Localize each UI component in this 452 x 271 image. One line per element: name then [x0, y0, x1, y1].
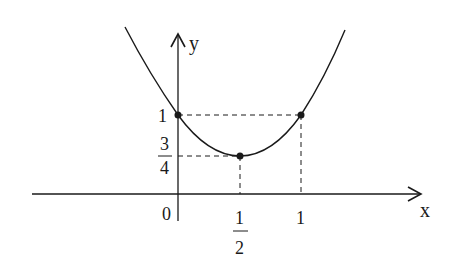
y-tick-three-quarters-numerator: 3	[160, 134, 169, 154]
point-y-intercept	[175, 112, 182, 119]
x-tick-1: 1	[296, 208, 305, 228]
graph-canvas: y x 0 1 3 4 1 2 1	[0, 0, 452, 271]
y-tick-three-quarters-denominator: 4	[160, 158, 169, 178]
point-symmetric	[298, 112, 305, 119]
x-tick-half-numerator: 1	[235, 208, 244, 228]
origin-label: 0	[162, 204, 171, 224]
point-vertex	[237, 153, 244, 160]
y-tick-1: 1	[158, 106, 167, 126]
parabola-curve	[125, 27, 345, 156]
x-axis-label: x	[420, 199, 430, 221]
y-axis-label: y	[189, 32, 199, 55]
x-tick-half-denominator: 2	[235, 238, 244, 258]
